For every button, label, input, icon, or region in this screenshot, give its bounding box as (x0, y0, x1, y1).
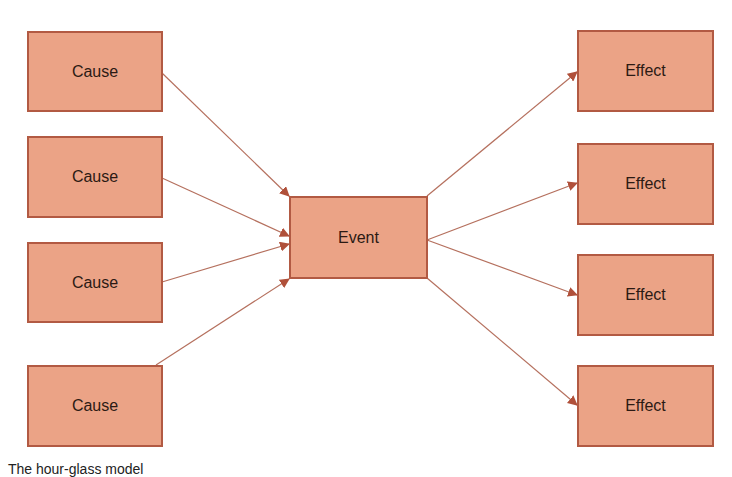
arrow-cause4-event (156, 279, 289, 365)
cause-box-2: Cause (27, 136, 163, 218)
arrow-cause3-event (162, 244, 289, 282)
cause-label: Cause (72, 63, 118, 81)
arrow-event-effect4 (427, 278, 577, 405)
arrow-cause1-event (162, 73, 289, 196)
cause-box-3: Cause (27, 242, 163, 323)
effect-label: Effect (625, 286, 666, 304)
cause-label: Cause (72, 397, 118, 415)
arrow-event-effect2 (427, 183, 577, 240)
effect-label: Effect (625, 62, 666, 80)
effect-label: Effect (625, 175, 666, 193)
cause-box-1: Cause (27, 31, 163, 112)
cause-box-4: Cause (27, 365, 163, 447)
effect-box-1: Effect (577, 30, 714, 112)
figure-caption: The hour-glass model (8, 461, 143, 477)
effect-box-4: Effect (577, 365, 714, 447)
arrow-event-effect1 (427, 72, 577, 196)
cause-label: Cause (72, 274, 118, 292)
effect-label: Effect (625, 397, 666, 415)
cause-label: Cause (72, 168, 118, 186)
arrow-event-effect3 (427, 240, 577, 295)
effect-box-3: Effect (577, 254, 714, 336)
effect-box-2: Effect (577, 143, 714, 225)
arrow-cause2-event (162, 178, 289, 236)
event-box: Event (289, 196, 428, 279)
event-label: Event (338, 229, 379, 247)
